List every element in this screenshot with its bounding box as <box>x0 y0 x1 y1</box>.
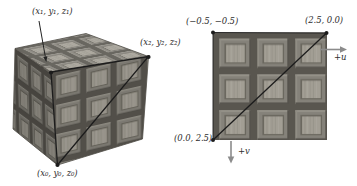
v-axis-arrowhead-icon <box>228 157 235 164</box>
texture-mapping-figure: (x₁, y₁, z₁) (x₂, y₂, z₂) (x₀, y₀, z₀) (… <box>0 0 357 186</box>
vertex-dot-v1 <box>49 70 53 74</box>
vertex-label-v2: (x₂, y₂, z₂) <box>140 37 181 47</box>
uv-dot-top-left <box>211 31 215 35</box>
vertex-label-v1: (x₁, y₁, z₁) <box>32 6 73 16</box>
textured-cube <box>13 21 151 167</box>
uv-triangle-top-edge <box>213 33 327 34</box>
u-axis-label: +u <box>334 52 346 62</box>
v-axis-label: +v <box>238 146 250 156</box>
vertex-dot-v2 <box>146 55 150 59</box>
uv-label-bottom-left: (0.0, 2.5) <box>174 133 212 143</box>
uv-label-top-right: (2.5, 0.0) <box>305 15 343 25</box>
uv-label-top-left: (−0.5, −0.5) <box>186 16 238 26</box>
figure-canvas <box>0 0 357 186</box>
vertex-dot-v0 <box>55 163 59 167</box>
uv-dot-top-right <box>325 31 329 35</box>
texture-space <box>211 31 347 164</box>
cube-right-face-shade <box>51 57 149 166</box>
vertex-label-v0: (x₀, y₀, z₀) <box>37 168 78 178</box>
